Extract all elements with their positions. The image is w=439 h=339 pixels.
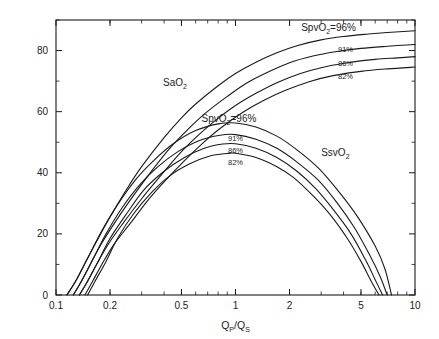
chart-plot-area: 0.10.20.512510020406080 SaO2SpvO2=96%91%… (0, 0, 439, 339)
sao2-91-label: 91% (338, 45, 353, 54)
y-tick-label: 0 (42, 290, 48, 301)
y-tick-label: 20 (37, 228, 49, 239)
chart-figure: 氧饱和度百分比（%） 0.10.20.512510020406080 SaO2S… (0, 0, 439, 339)
ssvo2-91-label: 91% (228, 134, 243, 143)
x-tick-label: 0.5 (175, 300, 189, 311)
x-tick-label: 2 (287, 300, 293, 311)
sao2-86-label: 86% (338, 59, 353, 68)
x-tick-label: 1 (233, 300, 239, 311)
y-tick-label: 60 (37, 106, 49, 117)
chart-background (0, 0, 439, 339)
x-tick-label: 5 (358, 300, 364, 311)
ssvo2-86-label: 86% (228, 146, 243, 155)
x-tick-label: 0.2 (103, 300, 117, 311)
x-tick-label: 0.1 (49, 300, 63, 311)
y-tick-label: 40 (37, 167, 49, 178)
x-tick-label: 10 (409, 300, 421, 311)
ssvo2-82-label: 82% (228, 158, 243, 167)
y-tick-label: 80 (37, 45, 49, 56)
sao2-82-label: 82% (338, 72, 353, 81)
